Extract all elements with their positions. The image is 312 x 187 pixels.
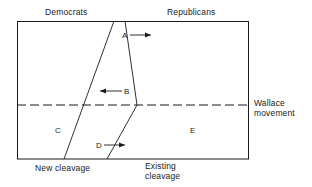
region-label-e: E	[190, 126, 195, 135]
region-label-a: A	[122, 31, 127, 40]
new-cleavage-label: New cleavage	[35, 164, 90, 173]
existing-cleavage-label-line2: cleavage	[145, 172, 180, 181]
diagram-canvas	[0, 0, 312, 187]
region-label-b: B	[124, 87, 129, 96]
region-label-c: C	[55, 126, 61, 135]
arrow-a	[130, 33, 151, 38]
wallace-movement-label-line1: Wallace	[254, 99, 285, 108]
header-label-republicans: Republicans	[167, 8, 215, 17]
wallace-movement-label-line2: movement	[254, 109, 295, 118]
cleavage-diagram: Democrats Republicans A B C D E Wallace …	[0, 0, 312, 187]
existing-cleavage-label-line1: Existing	[145, 162, 176, 171]
arrow-b	[100, 89, 122, 94]
arrow-d	[104, 143, 125, 148]
outer-rectangle	[18, 22, 249, 160]
new-cleavage-line	[64, 21, 114, 159]
existing-cleavage-line	[107, 21, 137, 159]
header-label-democrats: Democrats	[45, 8, 87, 17]
region-label-d: D	[96, 141, 102, 150]
